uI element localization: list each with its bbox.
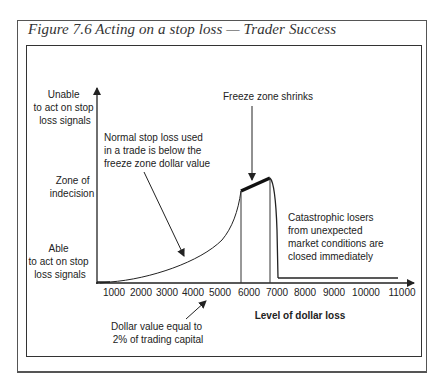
- x-axis-label: Level of dollar loss: [255, 310, 346, 321]
- svg-text:7000: 7000: [266, 287, 289, 298]
- svg-text:5000: 5000: [209, 287, 232, 298]
- svg-text:4000: 4000: [182, 287, 205, 298]
- svg-text:9000: 9000: [323, 287, 346, 298]
- annotation-freeze-zone: Freeze zone shrinks: [223, 91, 313, 102]
- svg-text:2000: 2000: [130, 287, 153, 298]
- y-label-able: Able to act on stop loss signals: [29, 243, 92, 280]
- svg-text:8000: 8000: [294, 287, 317, 298]
- dollar-value-arrow: [186, 301, 206, 319]
- catastrophic-drop: [270, 178, 278, 278]
- y-label-indecision: Zone of indecision: [50, 175, 94, 199]
- svg-text:6000: 6000: [238, 287, 261, 298]
- y-label-unable: Unable to act on stop loss signals: [34, 89, 97, 126]
- annotation-dollar-value: Dollar value equal to 2% of trading capi…: [111, 321, 205, 345]
- svg-text:10000: 10000: [352, 287, 380, 298]
- annotation-normal-stop-loss: Normal stop loss used in a trade is belo…: [104, 132, 211, 169]
- svg-text:1000: 1000: [103, 287, 126, 298]
- annotation-catastrophic: Catastrophic losers from unexpected mark…: [288, 212, 386, 262]
- svg-text:11000: 11000: [388, 287, 416, 298]
- stop-loss-curve: [100, 191, 241, 283]
- x-tick-labels: 1000 2000 3000 4000 5000 6000 7000 8000 …: [103, 287, 416, 298]
- svg-text:3000: 3000: [156, 287, 179, 298]
- freeze-zone-segment: [241, 178, 270, 191]
- normal-stop-loss-arrow: [144, 172, 184, 256]
- chart-svg: Unable to act on stop loss signals Zone …: [0, 0, 444, 383]
